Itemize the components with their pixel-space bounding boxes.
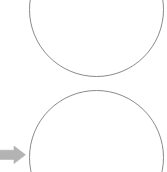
lower-circle-shape[interactable] xyxy=(29,90,164,172)
arrow-right-icon xyxy=(0,144,27,166)
arrow-pointer-icon[interactable] xyxy=(0,144,27,166)
upper-circle-shape[interactable] xyxy=(29,0,164,77)
arrow-right-path xyxy=(0,146,26,164)
drawing-canvas xyxy=(0,0,167,172)
shape-layer xyxy=(0,0,167,172)
